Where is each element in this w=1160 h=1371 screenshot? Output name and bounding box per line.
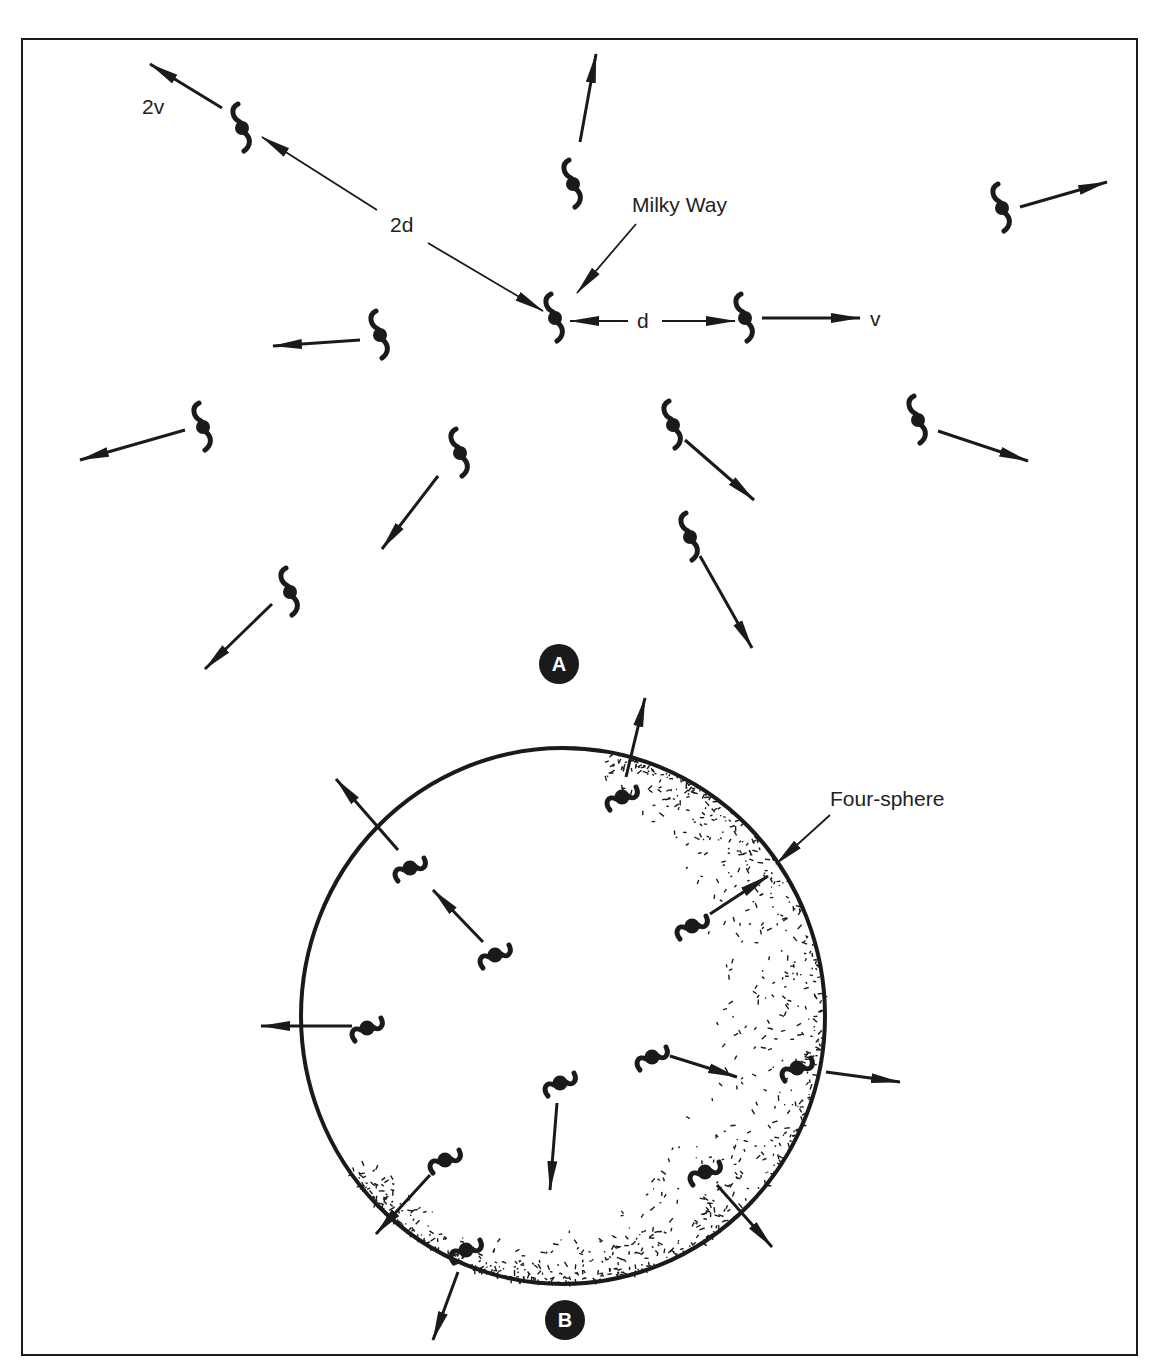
expanding-universe-diagram: 2v 2d Milky Way d v A (0, 0, 1160, 1371)
galaxy-left (194, 403, 210, 450)
distance-2d-line-lower (428, 243, 543, 311)
galaxy-b9 (430, 1150, 460, 1173)
galaxy-right-mid (664, 401, 680, 448)
galaxy-b4 (480, 945, 510, 968)
panel-b: Four-sphere B (261, 698, 944, 1340)
galaxy-top (564, 160, 580, 207)
galaxy-b7 (782, 1058, 812, 1081)
galaxy-right-top (993, 184, 1009, 231)
galaxy-bottom-left (281, 568, 297, 615)
galaxy-b10 (690, 1162, 720, 1185)
label-2v: 2v (142, 95, 165, 118)
label-milky-way: Milky Way (632, 193, 727, 216)
label-v: v (870, 307, 881, 330)
velocity-arrows-b (261, 698, 900, 1340)
panel-badge-b: B (545, 1300, 585, 1340)
panel-badge-a: A (539, 644, 579, 684)
label-four-sphere: Four-sphere (830, 787, 944, 810)
milky-way-pointer (577, 224, 636, 293)
svg-text:B: B (558, 1309, 572, 1331)
svg-text:A: A (552, 653, 566, 675)
galaxy-2d (233, 104, 249, 151)
galaxy-b6 (637, 1047, 667, 1070)
galaxy-left-mid (371, 311, 387, 358)
velocity-arrows-a (80, 54, 1107, 669)
galaxy-right (909, 396, 925, 443)
distance-2d-line-upper (262, 137, 377, 210)
galaxy-lower-right (681, 513, 697, 560)
galaxy-b3 (677, 916, 707, 939)
panel-a: 2v 2d Milky Way d v A (80, 54, 1107, 684)
galaxy-b8 (545, 1073, 575, 1096)
galaxy-center-low (451, 429, 467, 476)
label-d: d (637, 309, 649, 332)
galaxy-b5 (352, 1018, 382, 1041)
galaxy-milky-way (546, 294, 562, 341)
distance-lines (262, 137, 735, 321)
four-sphere-pointer (776, 815, 830, 864)
label-2d: 2d (390, 213, 413, 236)
galaxy-d (736, 294, 752, 341)
galaxy-b2 (395, 858, 425, 881)
galaxy-b1 (607, 787, 637, 810)
